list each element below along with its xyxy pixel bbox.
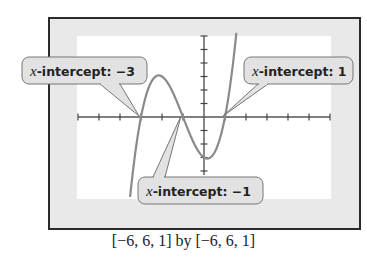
- callout-label: x-intercept: −1: [145, 183, 251, 199]
- callout-label: x-intercept: −3: [29, 63, 135, 79]
- callout-text: -intercept: 1: [259, 64, 347, 79]
- callout-text: -intercept: −3: [37, 64, 135, 79]
- graph-figure: x-intercept: −3x-intercept: 1x-intercept…: [0, 0, 367, 261]
- callout-text: -intercept: −1: [153, 184, 251, 199]
- callout-label: x-intercept: 1: [251, 63, 347, 79]
- window-caption: [−6, 6, 1] by [−6, 6, 1]: [0, 232, 367, 250]
